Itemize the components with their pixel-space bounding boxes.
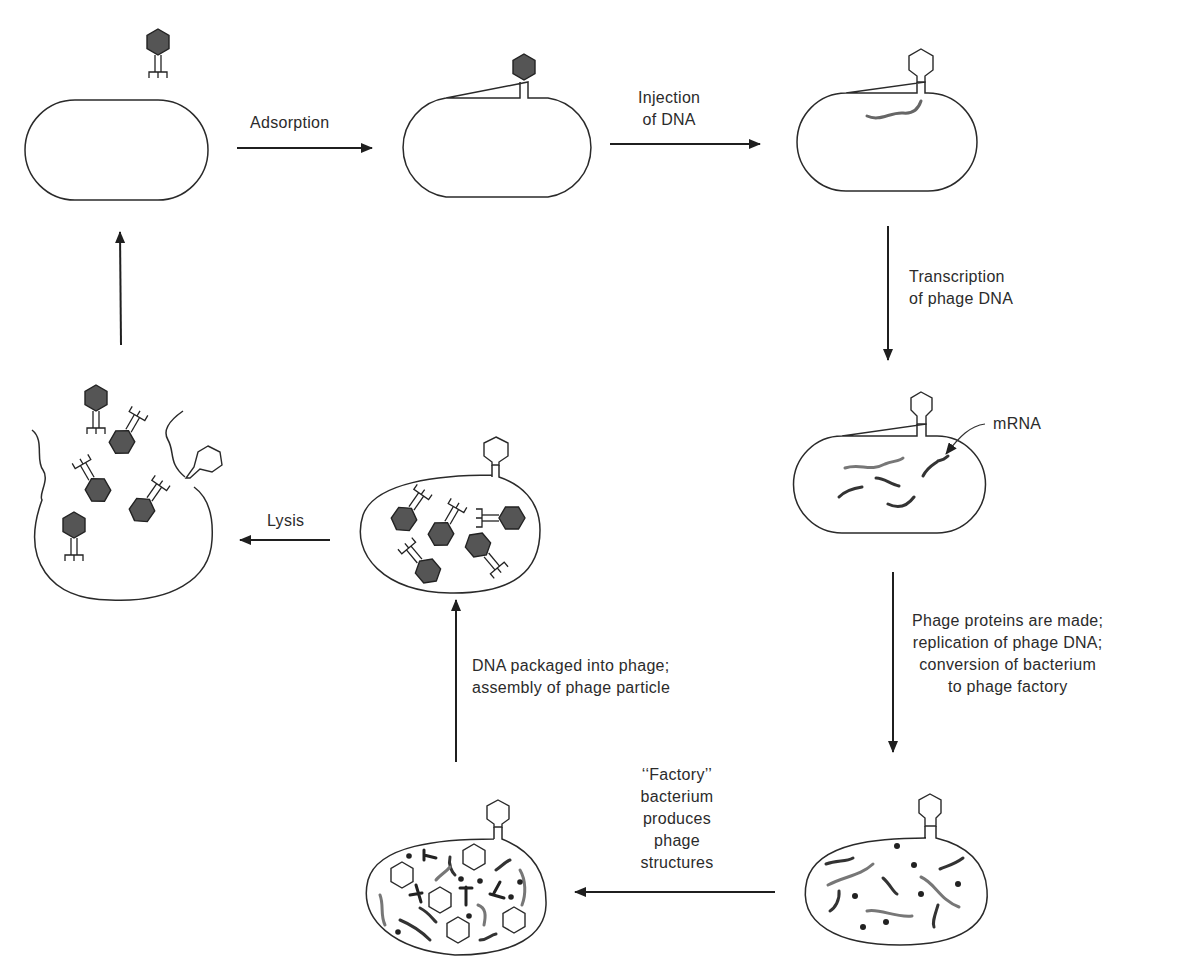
stage-lysed bbox=[32, 385, 222, 600]
empty-phage-coat-icon bbox=[919, 794, 941, 826]
empty-phage-coat-icon bbox=[484, 437, 508, 465]
transcription-label: Transcription of phage DNA bbox=[909, 266, 1013, 310]
packaging-label-line-2: assembly of phage particle bbox=[472, 677, 670, 699]
factory-label-line-2: bacterium bbox=[622, 786, 732, 808]
lysis-label: Lysis bbox=[267, 510, 304, 532]
empty-phage-coat-icon bbox=[911, 392, 932, 424]
packaging-label: DNA packaged into phage; assembly of pha… bbox=[472, 655, 670, 699]
factory-label-line-1: ‘‘Factory’’ bbox=[622, 764, 732, 786]
transcription-label-line-1: Transcription bbox=[909, 266, 1013, 288]
injection-label-line-1: Injection bbox=[638, 87, 700, 109]
stage-assembled bbox=[360, 437, 540, 593]
adsorption-label: Adsorption bbox=[250, 112, 330, 134]
factory-label-line-4: phage bbox=[622, 830, 732, 852]
factory-label-line-5: structures bbox=[622, 852, 732, 874]
phage-head-icon bbox=[513, 54, 535, 80]
protein-synthesis-label: Phage proteins are made; replication of … bbox=[912, 610, 1103, 698]
factory-label: ‘‘Factory’’ bacterium produces phage str… bbox=[622, 764, 732, 874]
cycle-return-arrow bbox=[120, 232, 121, 345]
injection-label: Injection of DNA bbox=[638, 87, 700, 131]
protein-label-line-1: Phage proteins are made; bbox=[912, 610, 1103, 632]
bacterium-cell bbox=[25, 100, 208, 200]
protein-label-line-2: replication of phage DNA; bbox=[912, 632, 1103, 654]
phage-icon bbox=[388, 483, 434, 536]
empty-phage-coat-icon bbox=[186, 446, 222, 478]
phage-icon bbox=[63, 512, 85, 561]
protein-label-line-4: to phage factory bbox=[912, 676, 1103, 698]
phage-tails bbox=[410, 850, 504, 905]
protein-label-line-3: conversion of bacterium bbox=[912, 654, 1103, 676]
phage-icon bbox=[106, 405, 150, 458]
lytic-cycle-diagram bbox=[0, 0, 1180, 979]
mrna-label: mRNA bbox=[993, 413, 1041, 435]
bacterium-cell bbox=[403, 82, 591, 197]
phage-dna-strand bbox=[867, 101, 921, 118]
stage-factory bbox=[366, 800, 546, 955]
mrna-pointer-arrow bbox=[946, 424, 985, 454]
transcription-label-line-2: of phage DNA bbox=[909, 288, 1013, 310]
phage-icon bbox=[126, 474, 172, 527]
phage-icon bbox=[70, 453, 114, 506]
dna-strands bbox=[826, 858, 963, 927]
stage-attached-phage bbox=[403, 54, 591, 197]
phage-icon bbox=[425, 497, 469, 550]
phage-icon bbox=[147, 29, 169, 78]
empty-phage-coat-icon bbox=[487, 800, 509, 827]
bacterium-cell bbox=[797, 82, 977, 191]
empty-phage-coat-icon bbox=[909, 49, 933, 82]
phage-icon bbox=[461, 528, 509, 580]
packaging-label-line-1: DNA packaged into phage; bbox=[472, 655, 670, 677]
stage-replication bbox=[805, 794, 987, 945]
injection-label-line-2: of DNA bbox=[638, 109, 700, 131]
phage-icon bbox=[85, 385, 107, 434]
phage-icon bbox=[476, 507, 525, 529]
ruptured-membrane bbox=[32, 430, 212, 600]
mrna-strands bbox=[839, 456, 948, 507]
factory-label-line-3: produces bbox=[622, 808, 732, 830]
ruptured-membrane bbox=[166, 411, 185, 477]
stage-dna-injected bbox=[797, 49, 977, 191]
stage-mrna bbox=[794, 392, 986, 533]
stage-free-phage bbox=[25, 29, 208, 200]
